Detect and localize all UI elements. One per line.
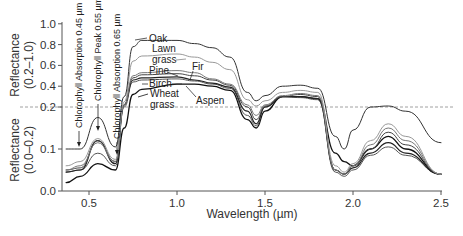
- x-tick-label: 0.5: [81, 197, 97, 209]
- y-tick-upper: 0.8: [40, 39, 56, 51]
- svg-text:Wheat: Wheat: [150, 88, 179, 99]
- curve-aspen: [66, 79, 441, 176]
- spectral-curves: [66, 40, 441, 182]
- svg-text:Pine: Pine: [149, 65, 169, 76]
- y-tick-upper: 0.4: [40, 80, 57, 92]
- y-axis-title-upper-range: (0.2–1.0): [22, 41, 36, 89]
- x-tick-label: 2.5: [433, 197, 449, 209]
- annotation-chlorophyll-absorption-045: Chlorophyll Absorption 0.45 µm: [74, 3, 84, 147]
- svg-text:grass: grass: [150, 99, 174, 110]
- svg-text:Chlorophyll Absorption 0.45 µm: Chlorophyll Absorption 0.45 µm: [74, 3, 84, 128]
- x-axis-title: Wavelength (µm): [206, 207, 297, 221]
- x-tick-label: 1.0: [169, 197, 185, 209]
- y-axis-title-upper: Reflectance: [8, 33, 22, 97]
- y-tick-lower: 0.1: [40, 143, 56, 155]
- y-tick-upper: 1.0: [40, 18, 56, 30]
- y-axis-title-lower: Reflectance: [8, 118, 22, 182]
- x-tick-label: 2.0: [345, 197, 361, 209]
- y-ticks: 1.00.80.60.40.20.10.0: [40, 18, 62, 197]
- y-tick-lower: 0.2: [40, 101, 56, 113]
- annotation-chlorophyll-absorption-065: Chlorophyll Absorption 0.65 µm: [112, 14, 122, 155]
- svg-text:Chlorophyll Peak 0.55 µm: Chlorophyll Peak 0.55 µm: [93, 0, 103, 101]
- svg-text:Fir: Fir: [192, 61, 204, 72]
- series-label-aspen: Aspen: [186, 86, 224, 106]
- reflectance-spectra-chart: 1.00.80.60.40.20.10.0 0.51.01.52.02.5 Re…: [0, 0, 463, 236]
- series-label-wheat-grass: Wheat grass: [138, 88, 179, 110]
- svg-text:Chlorophyll Absorption 0.65 µm: Chlorophyll Absorption 0.65 µm: [112, 14, 122, 139]
- arrow-icon: [96, 126, 100, 131]
- y-tick-lower: 0.0: [40, 185, 56, 197]
- svg-text:grass: grass: [152, 54, 176, 65]
- annotation-chlorophyll-peak-055: Chlorophyll Peak 0.55 µm: [93, 0, 103, 131]
- svg-text:Lawn: Lawn: [152, 43, 176, 54]
- y-tick-upper: 0.6: [40, 59, 56, 71]
- y-axis-title-lower-range: (0.0–0.2): [22, 126, 36, 174]
- svg-text:Aspen: Aspen: [196, 95, 224, 106]
- arrow-icon: [77, 142, 81, 147]
